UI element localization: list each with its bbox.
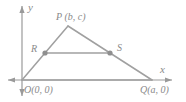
point-label-Q: Q(a, 0) <box>140 85 169 95</box>
geometry-figure: y x P (b, c) R S O(0, 0) Q(a, 0) <box>0 0 186 102</box>
point-label-S: S <box>117 43 122 53</box>
y-axis <box>19 6 24 96</box>
point-label-P: P (b, c) <box>56 12 86 22</box>
y-axis-label: y <box>28 2 33 13</box>
x-axis-arrow-positive <box>165 77 172 82</box>
x-axis-label: x <box>160 64 165 75</box>
midsegment-RS <box>42 50 112 55</box>
point-R-dot <box>42 50 47 55</box>
point-S-dot <box>107 50 112 55</box>
y-axis-arrow-positive <box>19 6 24 13</box>
point-label-R: R <box>31 44 37 54</box>
x-axis-arrow-negative <box>8 77 15 82</box>
point-label-O: O(0, 0) <box>24 85 53 95</box>
